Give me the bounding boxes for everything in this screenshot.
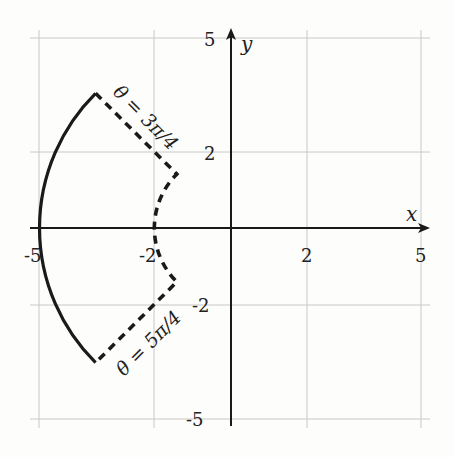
y-tick-neg2: -2 <box>192 295 210 316</box>
x-tick-neg2: -2 <box>139 245 157 266</box>
x-tick-2: 2 <box>301 245 312 266</box>
y-axis-label: y <box>240 32 253 56</box>
y-tick-2: 2 <box>204 143 215 164</box>
x-axis-label: x <box>406 202 417 226</box>
y-tick-neg5: -5 <box>186 409 204 430</box>
lower-ray-label: θ = 5π/4 <box>111 306 185 380</box>
y-tick-5: 5 <box>204 29 215 50</box>
x-tick-neg5: -5 <box>24 245 42 266</box>
x-tick-5: 5 <box>415 245 426 266</box>
axes <box>30 28 430 426</box>
polar-diagram: x y -5 -2 2 5 5 2 -2 -5 θ = 3π/4 θ = 5π/… <box>0 0 454 457</box>
